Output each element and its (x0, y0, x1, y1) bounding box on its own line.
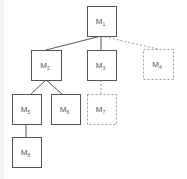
node-m7: M7 (88, 95, 117, 125)
node-m5: M5 (13, 95, 42, 125)
node-m1: M1 (88, 7, 117, 37)
edge-m1-m4 (101, 36, 158, 49)
node-m3: M3 (88, 51, 117, 81)
node-m8: M8 (13, 138, 42, 168)
edge-m2-m6 (46, 80, 62, 94)
node-m2: M2 (32, 51, 62, 81)
node-m6: M6 (52, 95, 81, 125)
edge-m2-m5 (31, 80, 46, 94)
diagram-canvas: M1M2M3M4M5M6M7M8 (0, 0, 187, 179)
tree-diagram: M1M2M3M4M5M6M7M8 (0, 0, 187, 179)
edge-m1-m2 (46, 36, 101, 50)
node-m4: M4 (144, 50, 174, 80)
